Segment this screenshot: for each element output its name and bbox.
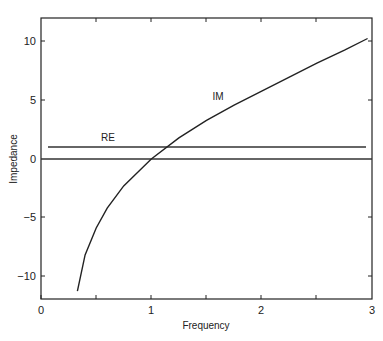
x-tick-label-2: 2	[258, 304, 264, 316]
impedance-chart: 0 1 2 3 10 5 0 −5 −10 Frequency Impedanc…	[0, 0, 383, 341]
x-tick-label-1: 1	[148, 304, 154, 316]
x-tick-label-3: 3	[369, 304, 375, 316]
y-tick-label-5: 5	[30, 94, 36, 106]
re-series-label: RE	[101, 132, 115, 143]
im-series-curve	[77, 39, 367, 292]
y-tick-label-0: 0	[30, 153, 36, 165]
y-tick-label-neg10: −10	[17, 270, 36, 282]
x-axis-title: Frequency	[182, 320, 229, 331]
y-axis-title: Impedance	[8, 134, 19, 184]
im-series-label: IM	[212, 91, 223, 102]
x-tick-label-0: 0	[38, 304, 44, 316]
y-tick-label-10: 10	[24, 35, 36, 47]
y-tick-label-neg5: −5	[23, 211, 36, 223]
